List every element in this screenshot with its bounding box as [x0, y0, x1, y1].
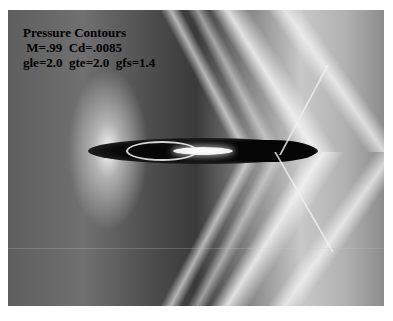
figure-caption: Pressure Contours M=.99 Cd=.0085 gle=2.0…: [23, 25, 155, 70]
pressure-contour-plot: Pressure Contours M=.99 Cd=.0085 gle=2.0…: [8, 10, 384, 306]
grid-params-label: gle=2.0 gte=2.0 gfs=1.4: [23, 55, 155, 70]
mach-drag-label: M=.99 Cd=.0085: [23, 40, 155, 55]
aft-low-pressure-region: [226, 140, 316, 162]
airfoil-body: [173, 147, 233, 155]
scan-artifact: [8, 248, 384, 249]
figure-title: Pressure Contours: [23, 25, 155, 40]
